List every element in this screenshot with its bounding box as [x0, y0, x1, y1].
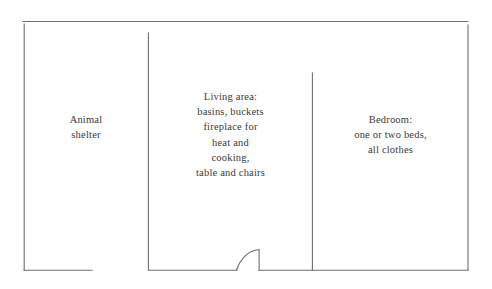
room-label-living-area: Living area: basins, buckets fireplace f…: [149, 89, 312, 180]
door-swing-arc-icon: [237, 250, 259, 270]
room-label-animal-shelter: Animal shelter: [24, 112, 148, 142]
room-label-bedroom: Bedroom: one or two beds, all clothes: [313, 112, 468, 158]
floor-plan-diagram: Animal shelter Living area: basins, buck…: [0, 0, 492, 289]
